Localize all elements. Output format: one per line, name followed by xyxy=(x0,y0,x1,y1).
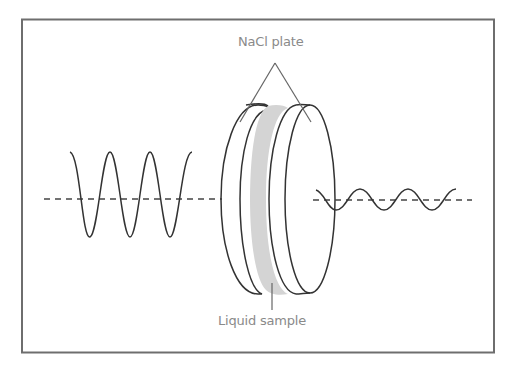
incident-wave xyxy=(70,152,192,237)
label-liquid-sample: Liquid sample xyxy=(218,313,306,328)
nacl-plate-right-front xyxy=(285,105,335,293)
label-nacl-plate: NaCl plate xyxy=(238,34,303,49)
nacl-plate-right-rim-bottom xyxy=(296,293,310,294)
